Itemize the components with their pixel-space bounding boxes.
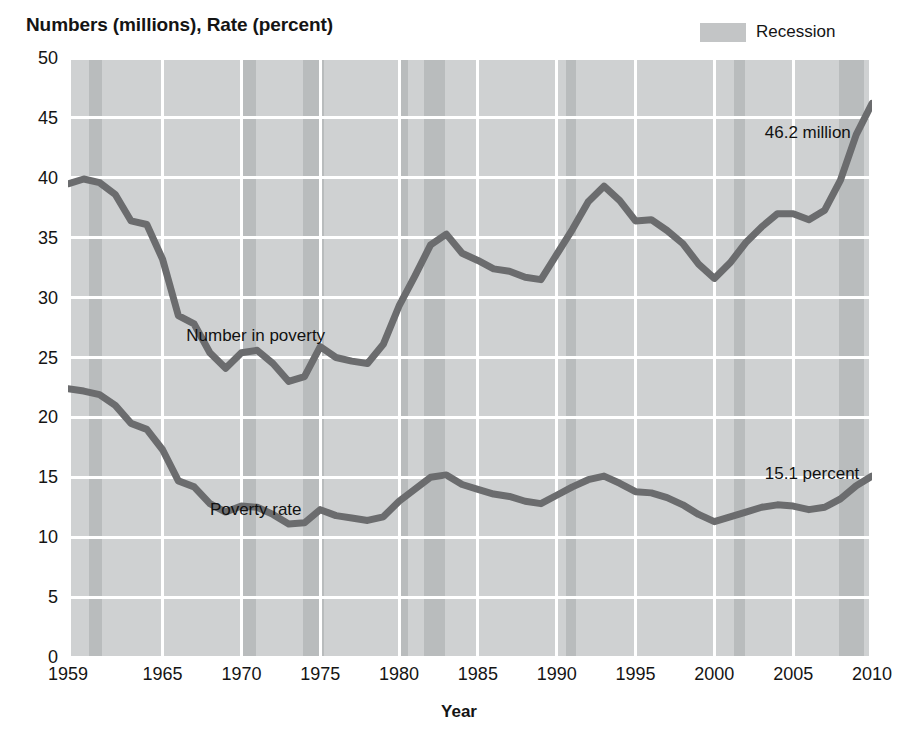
y-axis-tick-label: 20 — [14, 407, 58, 428]
y-axis-tick-label: 50 — [14, 48, 58, 69]
y-axis-tick-label: 15 — [14, 467, 58, 488]
x-axis-tick-label: 1985 — [458, 664, 498, 685]
number-in-poverty-label: Number in poverty — [186, 326, 325, 346]
x-axis-tick-label: 1990 — [537, 664, 577, 685]
rate-value-label: 15.1 percent — [765, 464, 860, 484]
y-axis-tick-label: 30 — [14, 287, 58, 308]
x-axis-title: Year — [0, 702, 918, 722]
recession-legend-label: Recession — [756, 22, 835, 42]
y-axis-tick-label: 5 — [14, 587, 58, 608]
y-axis-tick-label: 40 — [14, 167, 58, 188]
x-axis-tick-label: 1995 — [615, 664, 655, 685]
plot-area: Number in povertyPoverty rate46.2 millio… — [68, 58, 872, 657]
x-axis-tick-label: 1980 — [379, 664, 419, 685]
x-axis-tick-labels: 1959196519701975198019851990199520002005… — [0, 664, 918, 694]
y-axis-tick-label: 10 — [14, 527, 58, 548]
x-axis-tick-label: 1959 — [48, 664, 88, 685]
x-axis-tick-label: 2005 — [773, 664, 813, 685]
x-axis-tick-label: 2010 — [852, 664, 892, 685]
x-axis-tick-label: 1975 — [300, 664, 340, 685]
chart-title: Numbers (millions), Rate (percent) — [26, 14, 333, 36]
x-axis-tick-label: 2000 — [694, 664, 734, 685]
series-lines — [68, 58, 872, 657]
y-axis-tick-label: 25 — [14, 347, 58, 368]
legend: Recession — [700, 22, 835, 42]
recession-legend-swatch — [700, 23, 746, 42]
x-axis-tick-label: 1970 — [221, 664, 261, 685]
chart-root: Numbers (millions), Rate (percent) Reces… — [0, 0, 918, 744]
x-axis-tick-label: 1965 — [143, 664, 183, 685]
y-axis-tick-label: 45 — [14, 107, 58, 128]
poverty-rate-label: Poverty rate — [210, 500, 302, 520]
number-value-label: 46.2 million — [765, 123, 851, 143]
y-axis-tick-label: 35 — [14, 227, 58, 248]
series-line — [68, 389, 872, 524]
